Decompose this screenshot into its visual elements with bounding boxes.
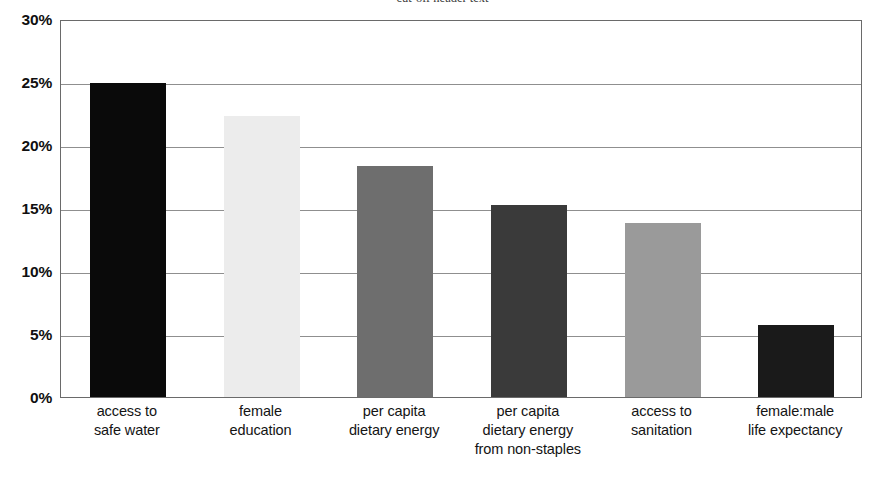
x-axis-label-line: education <box>187 421 335 440</box>
chart-title-cropped: cut-off header text <box>0 0 885 7</box>
y-axis-tick-label: 30% <box>0 12 52 28</box>
bar-series <box>61 21 861 397</box>
x-axis-label-line: sanitation <box>588 421 736 440</box>
x-axis-label-line: life expectancy <box>721 421 869 440</box>
x-axis-label-line: dietary energy <box>320 421 468 440</box>
x-axis-label-line: dietary energy <box>454 421 602 440</box>
y-axis: 30%25%20%15%10%5%0% <box>0 0 52 484</box>
x-axis-label-line: from non-staples <box>454 440 602 459</box>
y-axis-tick-label: 0% <box>0 390 52 406</box>
y-axis-tick-label: 25% <box>0 75 52 91</box>
bar[interactable] <box>491 205 567 397</box>
chart-title-text: cut-off header text <box>0 0 885 5</box>
x-axis-category-label: per capitadietary energyfrom non-staples <box>454 402 602 459</box>
bar-chart-figure: cut-off header text 30%25%20%15%10%5%0% … <box>0 0 885 484</box>
x-axis-label-line: per capita <box>454 402 602 421</box>
bar[interactable] <box>224 116 300 397</box>
plot-area <box>60 20 862 398</box>
x-axis-label-line: access to <box>53 402 201 421</box>
x-axis-category-label: female:malelife expectancy <box>721 402 869 440</box>
x-axis-label-line: safe water <box>53 421 201 440</box>
bar[interactable] <box>758 325 834 397</box>
bar[interactable] <box>625 223 701 397</box>
y-axis-tick-label: 20% <box>0 138 52 154</box>
x-axis-label-line: female:male <box>721 402 869 421</box>
y-axis-tick-label: 15% <box>0 201 52 217</box>
bar[interactable] <box>90 83 166 397</box>
x-axis-category-label: per capitadietary energy <box>320 402 468 440</box>
y-axis-tick-label: 5% <box>0 327 52 343</box>
x-axis-category-label: access tosanitation <box>588 402 736 440</box>
x-axis-label-line: access to <box>588 402 736 421</box>
bar[interactable] <box>357 166 433 397</box>
x-axis-label-line: female <box>187 402 335 421</box>
y-axis-tick-label: 10% <box>0 264 52 280</box>
x-axis-category-label: access tosafe water <box>53 402 201 440</box>
x-axis-label-line: per capita <box>320 402 468 421</box>
x-axis: access tosafe waterfemaleeducationper ca… <box>60 402 862 482</box>
x-axis-category-label: femaleeducation <box>187 402 335 440</box>
